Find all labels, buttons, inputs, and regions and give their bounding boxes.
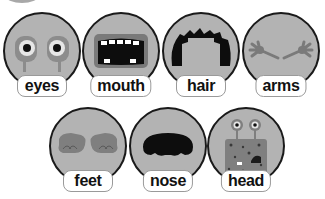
label-head: head <box>221 170 271 192</box>
card-feet[interactable]: feet <box>49 107 127 199</box>
card-mouth[interactable]: mouth <box>82 12 160 104</box>
label-arms: arms <box>255 75 306 97</box>
label-eyes: eyes <box>17 75 67 97</box>
card-hair[interactable]: hair <box>162 12 240 104</box>
card-arms[interactable]: arms <box>242 12 320 104</box>
label-nose: nose <box>143 170 193 192</box>
card-head[interactable]: head <box>207 107 285 199</box>
label-feet: feet <box>63 170 113 192</box>
label-hair: hair <box>176 75 226 97</box>
card-nose[interactable]: nose <box>129 107 207 199</box>
label-mouth: mouth <box>90 75 151 97</box>
card-eyes[interactable]: eyes <box>3 12 81 104</box>
partial-circle-decoration <box>6 0 38 3</box>
